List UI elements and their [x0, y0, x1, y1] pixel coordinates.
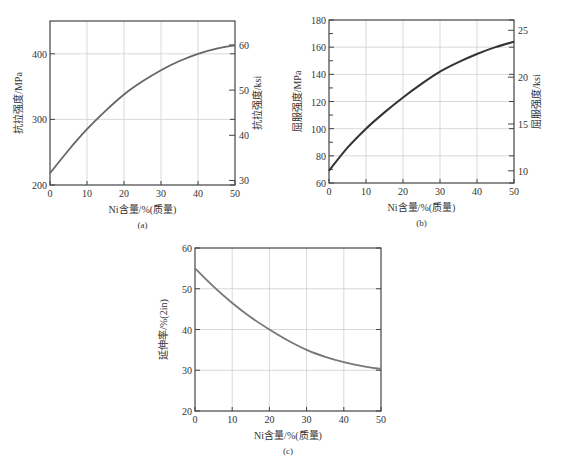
- x-tick-label: 30: [435, 186, 445, 197]
- chart-a: 0102030405020030040030405060抗拉强度/ksi抗拉强度…: [12, 21, 263, 230]
- figure-caption: (b): [416, 218, 427, 228]
- x-tick-label: 40: [193, 188, 203, 199]
- y-tick-label: 80: [316, 151, 326, 162]
- figure-caption: (a): [138, 220, 148, 230]
- y-tick-label: 60: [182, 243, 192, 254]
- chart-c: 010203040502030405060延伸率/%(2in)Ni含量/%(质量…: [157, 243, 386, 456]
- y2-tick-label: 50: [239, 85, 249, 96]
- y2-axis-label: 屈服强度/ksi: [530, 74, 542, 129]
- x-tick-label: 0: [327, 186, 332, 197]
- x-axis-label: Ni含量/%(质量): [388, 201, 456, 214]
- x-tick-label: 20: [398, 186, 408, 197]
- y-tick-label: 300: [32, 114, 47, 125]
- y-axis-label: 屈服强度/MPa: [291, 70, 303, 132]
- y-tick-label: 200: [32, 180, 47, 191]
- y-tick-label: 100: [311, 124, 326, 135]
- y-tick-label: 140: [311, 69, 326, 80]
- data-curve: [329, 42, 514, 171]
- chart-b: 01020304050608010012014016018010152025屈服…: [291, 15, 542, 228]
- figure-canvas: 0102030405020030040030405060抗拉强度/ksi抗拉强度…: [0, 0, 562, 472]
- x-axis-label: Ni含量/%(质量): [254, 429, 322, 442]
- y-tick-label: 60: [316, 178, 326, 189]
- x-tick-label: 30: [302, 414, 312, 425]
- plot-frame: [50, 21, 235, 185]
- x-tick-label: 50: [509, 186, 519, 197]
- y2-tick-label: 10: [518, 166, 528, 177]
- y2-tick-label: 20: [518, 72, 528, 83]
- y2-tick-label: 40: [239, 130, 249, 141]
- y-tick-label: 400: [32, 49, 47, 60]
- x-tick-label: 50: [376, 414, 386, 425]
- y-axis-label: 抗拉强度/MPa: [12, 72, 24, 134]
- x-tick-label: 40: [472, 186, 482, 197]
- figure-caption: (c): [283, 446, 293, 456]
- x-tick-label: 20: [264, 414, 274, 425]
- x-tick-label: 10: [227, 414, 237, 425]
- y-tick-label: 120: [311, 97, 326, 108]
- y-tick-label: 180: [311, 15, 326, 26]
- x-tick-label: 10: [361, 186, 371, 197]
- y-axis-label: 延伸率/%(2in): [157, 299, 170, 360]
- x-axis-label: Ni含量/%(质量): [109, 203, 177, 216]
- y2-tick-label: 15: [518, 119, 528, 130]
- y2-axis-label: 抗拉强度/ksi: [251, 76, 263, 131]
- y-tick-label: 30: [182, 365, 192, 376]
- data-curve: [195, 268, 381, 369]
- y-tick-label: 160: [311, 42, 326, 53]
- x-tick-label: 0: [193, 414, 198, 425]
- y-tick-label: 40: [182, 325, 192, 336]
- y2-tick-label: 25: [518, 25, 528, 36]
- x-tick-label: 10: [82, 188, 92, 199]
- x-tick-label: 30: [156, 188, 166, 199]
- y2-tick-label: 30: [239, 175, 249, 186]
- y2-tick-label: 60: [239, 40, 249, 51]
- y-tick-label: 20: [182, 406, 192, 417]
- x-tick-label: 50: [230, 188, 240, 199]
- x-tick-label: 40: [339, 414, 349, 425]
- data-curve: [50, 45, 235, 173]
- x-tick-label: 20: [119, 188, 129, 199]
- x-tick-label: 0: [48, 188, 53, 199]
- y-tick-label: 50: [182, 284, 192, 295]
